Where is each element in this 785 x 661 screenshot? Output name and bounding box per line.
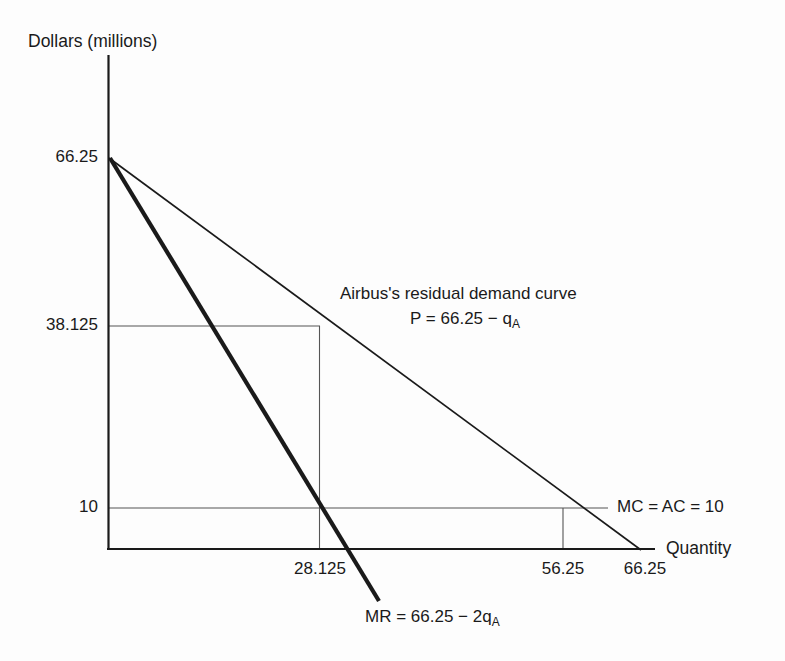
mr-equation-text: MR = 66.25 − 2q bbox=[365, 607, 492, 626]
mr-equation-subscript: A bbox=[492, 615, 500, 629]
x-tick-label-5625: 56.25 bbox=[518, 559, 608, 579]
mc-ac-label: MC = AC = 10 bbox=[617, 497, 724, 517]
demand-curve-equation: P = 66.25 − qA bbox=[340, 309, 590, 332]
chart-page: Dollars (millions) Quantity 66.25 38.125… bbox=[0, 0, 785, 661]
y-tick-label-6625: 66.25 bbox=[0, 147, 98, 167]
marginal-revenue-curve-line bbox=[110, 158, 379, 601]
demand-curve-label: Airbus's residual demand curve bbox=[340, 284, 577, 304]
y-axis-title: Dollars (millions) bbox=[28, 31, 157, 51]
x-axis-title: Quantity bbox=[666, 538, 731, 558]
marginal-revenue-equation: MR = 66.25 − 2qA bbox=[365, 607, 500, 630]
demand-equation-text: P = 66.25 − q bbox=[410, 309, 512, 328]
y-tick-label-10: 10 bbox=[0, 497, 98, 517]
demand-equation-subscript: A bbox=[512, 317, 520, 331]
x-tick-label-28125: 28.125 bbox=[265, 559, 375, 579]
x-tick-label-6625: 66.25 bbox=[600, 559, 690, 579]
y-tick-label-38125: 38.125 bbox=[0, 315, 98, 335]
demand-curve-line bbox=[109, 158, 641, 550]
